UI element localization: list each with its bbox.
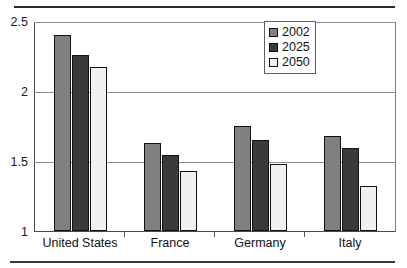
x-axis-category-label: Germany	[215, 236, 305, 250]
legend-swatch-icon	[269, 58, 278, 67]
bar-group	[125, 23, 215, 231]
legend-item[interactable]: 2025	[269, 40, 310, 55]
y-axis: 11.522.5	[0, 22, 28, 232]
y-tick-label: 1.5	[11, 155, 28, 169]
legend-label: 2002	[282, 26, 310, 39]
bar[interactable]	[144, 143, 161, 231]
bar-group	[35, 23, 125, 231]
bar[interactable]	[90, 67, 107, 231]
bar[interactable]	[54, 35, 71, 231]
bottom-divider-rule	[10, 261, 395, 263]
top-divider-rule	[14, 6, 395, 8]
y-tick-label: 1	[21, 225, 28, 239]
bar[interactable]	[252, 140, 269, 231]
legend-label: 2050	[282, 56, 310, 69]
bar[interactable]	[324, 136, 341, 231]
bar[interactable]	[270, 164, 287, 231]
legend-swatch-icon	[269, 28, 278, 37]
bar-group	[305, 23, 395, 231]
legend-swatch-icon	[269, 43, 278, 52]
legend: 200220252050	[264, 21, 316, 74]
y-tick-label: 2.5	[11, 15, 28, 29]
legend-item[interactable]: 2050	[269, 55, 310, 70]
legend-item[interactable]: 2002	[269, 25, 310, 40]
bar[interactable]	[180, 171, 197, 231]
bar-groups	[35, 23, 395, 231]
x-axis-category-label: United States	[35, 236, 125, 250]
plot-area	[34, 22, 396, 232]
bar[interactable]	[72, 55, 89, 231]
y-tick-label: 2	[21, 85, 28, 99]
x-axis-category-label: France	[125, 236, 215, 250]
bar-chart-figure: 11.522.5 United StatesFranceGermanyItaly…	[0, 0, 407, 268]
bar[interactable]	[234, 126, 251, 231]
bar[interactable]	[360, 186, 377, 231]
legend-label: 2025	[282, 41, 310, 54]
x-axis-labels: United StatesFranceGermanyItaly	[35, 236, 395, 250]
x-axis-category-label: Italy	[305, 236, 395, 250]
bar[interactable]	[342, 148, 359, 231]
bar[interactable]	[162, 155, 179, 231]
